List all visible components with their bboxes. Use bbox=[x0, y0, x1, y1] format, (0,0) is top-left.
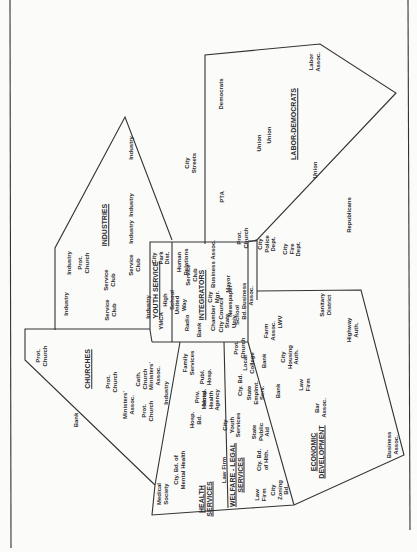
node-label: Service Club bbox=[128, 254, 141, 275]
node-label: City Streets bbox=[184, 153, 197, 173]
node-label: Law Firm bbox=[254, 488, 267, 501]
node-label: Union bbox=[312, 162, 319, 179]
node-label: Industry bbox=[66, 251, 73, 275]
node-label: Cath. Church bbox=[135, 369, 148, 390]
node-label: Labor Assoc. bbox=[308, 52, 321, 72]
node-label: City Youth Services bbox=[222, 413, 242, 438]
node-label: Business Assoc. bbox=[210, 240, 217, 288]
labor-democrats-boundary bbox=[205, 44, 396, 244]
node-label: Medical Society bbox=[156, 483, 169, 505]
node-label: Radio bbox=[184, 315, 191, 332]
node-label: LWV bbox=[277, 316, 284, 329]
youth-bottom-boundary bbox=[150, 330, 152, 342]
node-label: Ministers' Assoc. bbox=[148, 362, 161, 390]
node-label: Farm Assoc. bbox=[263, 321, 276, 341]
node-label: City Housing Auth. bbox=[280, 345, 300, 369]
node-label: City Zoning Bd. bbox=[270, 480, 290, 500]
node-label: Industry bbox=[145, 295, 152, 319]
node-label: Cty. Bd. bbox=[237, 374, 244, 396]
node-label: Prot. Church bbox=[233, 338, 246, 359]
right-border-line bbox=[408, 0, 410, 530]
diagram-lines bbox=[0, 0, 417, 552]
node-label: Cty. Bd. of Hlth. bbox=[256, 449, 269, 471]
node-label: Prot. Church bbox=[141, 401, 154, 422]
node-label: Bank bbox=[73, 413, 80, 428]
node-label: Cty. Bd. of Mental Health bbox=[173, 450, 186, 489]
node-label: Highway Auth. bbox=[346, 318, 359, 343]
node-label: Family Services bbox=[182, 351, 195, 376]
node-label: Sanitary District bbox=[319, 293, 332, 317]
node-label: Business Assoc. bbox=[241, 283, 254, 310]
node-label: Hosp. Bd. bbox=[189, 412, 202, 429]
node-label: Bank bbox=[275, 384, 282, 399]
node-label: Bar Assoc. bbox=[314, 398, 327, 418]
node-label: Law Firm bbox=[298, 378, 311, 391]
node-label: State Public Aid bbox=[251, 423, 271, 441]
group-title: INTEGRATORS bbox=[198, 270, 206, 320]
node-label: Republicans bbox=[346, 197, 353, 233]
group-title: LABOR-DEMOCRATS bbox=[290, 88, 298, 160]
node-label: Democrats bbox=[218, 78, 225, 109]
node-label: Ministers' Assoc. bbox=[122, 391, 135, 419]
group-title: INDUSTRIES bbox=[101, 204, 109, 246]
node-label: Industry bbox=[63, 292, 70, 316]
group-title: HEALTH SERVICES bbox=[198, 481, 213, 516]
left-border-line bbox=[10, 0, 11, 548]
node-label: Prot. Church bbox=[77, 253, 90, 274]
node-label: State Emplmt. Serv. bbox=[246, 381, 266, 405]
node-label: Service Club bbox=[104, 299, 117, 320]
node-label: United Way bbox=[174, 296, 187, 315]
node-label: City Fire Dept. bbox=[282, 242, 302, 257]
group-title: ECONOMIC DEVELOPMENT bbox=[310, 425, 325, 478]
node-label: Industry bbox=[128, 136, 135, 160]
node-label: Prot. Church bbox=[35, 346, 48, 367]
group-title: WELFARE - LEGAL SERVICES bbox=[229, 443, 244, 507]
node-label: Bank bbox=[196, 323, 203, 338]
node-label: YMCA bbox=[158, 312, 165, 330]
group-title: CHURCHES bbox=[84, 349, 92, 389]
node-label: Industry bbox=[128, 220, 135, 244]
node-label: Service Club bbox=[103, 269, 116, 290]
node-label: Law Firm bbox=[221, 457, 228, 483]
node-label: Business Assoc. bbox=[386, 432, 399, 459]
node-label: Chamber bbox=[210, 305, 217, 331]
node-label: Bank bbox=[261, 354, 268, 369]
node-label: Union bbox=[266, 127, 273, 144]
diagram-canvas: IndustryCity StreetsINDUSTRIESIndustryIn… bbox=[0, 0, 417, 552]
node-label: City Police Dept. bbox=[257, 235, 277, 253]
node-label: Prot. Church bbox=[236, 228, 249, 249]
node-label: Industry bbox=[163, 381, 170, 405]
node-label: Prot. Church bbox=[105, 372, 118, 393]
node-label: Industry bbox=[128, 193, 135, 217]
node-label: PTA bbox=[219, 191, 226, 203]
node-label: Mental Health Agency bbox=[201, 389, 221, 411]
node-label: Service Club bbox=[185, 264, 198, 285]
node-label: Union bbox=[256, 135, 263, 152]
group-title: YOUTH SERVICE bbox=[152, 261, 160, 318]
node-label: Publ. Hosp. bbox=[199, 369, 212, 386]
node-label: Newspaper bbox=[227, 285, 234, 317]
